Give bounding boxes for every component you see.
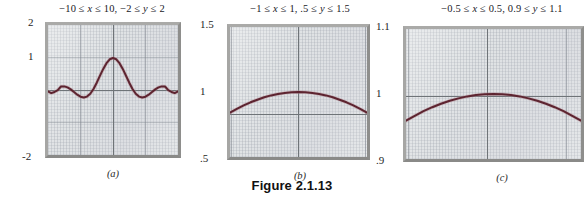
- panel-b-curve: [230, 27, 367, 157]
- panel-b-ytick-top: 1.5: [200, 18, 224, 30]
- figure-label: Figure 2.1.13: [252, 178, 333, 193]
- panel-a-ytick-bottom: -2: [22, 150, 42, 162]
- panel-b-ytick-bottom: .5: [200, 152, 224, 164]
- panel-a-ytick-top: 2: [28, 16, 42, 28]
- panel-c-title: −0.5 ≤ x ≤ 0.5, 0.9 ≤ y ≤ 1.1: [441, 3, 562, 14]
- plot-panel-a: −10 ≤ x ≤ 10, −2 ≤ y ≤ 2 2 1 -2 (a): [0, 0, 190, 198]
- panel-b-title: −1 ≤ x ≤ 1, .5 ≤ y ≤ 1.5: [250, 3, 350, 14]
- panel-b-ytick-one: 1: [200, 85, 224, 97]
- panel-a-curve: [48, 25, 178, 155]
- panel-c-ytick-one: 1: [376, 87, 400, 99]
- panel-b-screen: [227, 24, 370, 160]
- panel-c-curve: [406, 29, 581, 159]
- panel-a-screen: [45, 22, 181, 158]
- panel-a-ytick-one: 1: [28, 50, 42, 62]
- plot-panel-c: −0.5 ≤ x ≤ 0.5, 0.9 ≤ y ≤ 1.1 1.1 1 .9 (…: [378, 0, 584, 198]
- figure-2-1-13: −10 ≤ x ≤ 10, −2 ≤ y ≤ 2 2 1 -2 (a) −: [0, 0, 584, 198]
- panel-a-title: −10 ≤ x ≤ 10, −2 ≤ y ≤ 2: [59, 3, 165, 14]
- panel-c-ytick-bottom: .9: [376, 154, 400, 166]
- panel-a-caption: (a): [107, 168, 119, 179]
- panel-c-screen: [403, 26, 584, 162]
- panel-c-caption: (c): [496, 172, 508, 183]
- panel-c-ytick-top: 1.1: [376, 20, 400, 32]
- plot-panel-b: −1 ≤ x ≤ 1, .5 ≤ y ≤ 1.5 1.5 1 .5 (b): [190, 0, 380, 198]
